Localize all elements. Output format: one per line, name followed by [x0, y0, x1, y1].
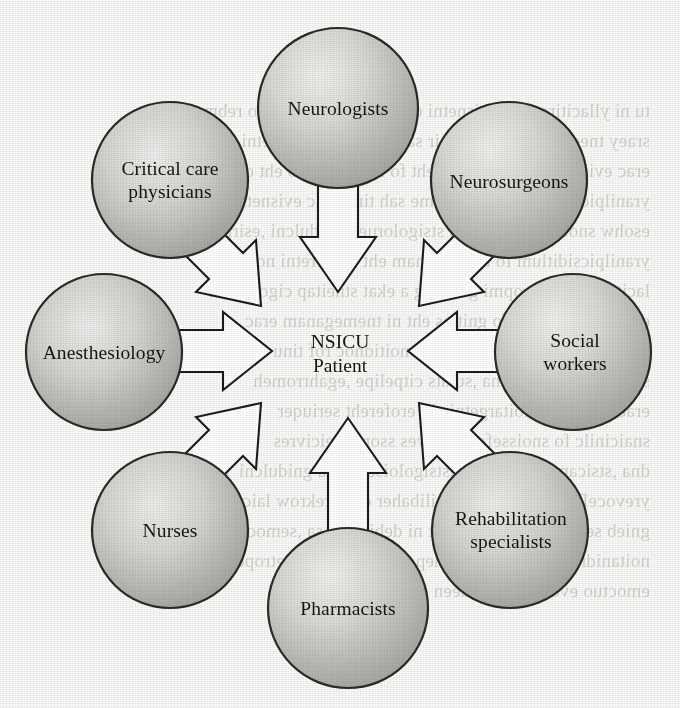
- node-social-workers[interactable]: [495, 274, 651, 430]
- node-pharmacists[interactable]: [268, 528, 428, 688]
- node-critical-care-physicians[interactable]: [92, 102, 248, 258]
- node-neurologists[interactable]: [258, 28, 418, 188]
- center-label-nsicu-patient: NSICU Patient: [311, 330, 370, 378]
- figure-page: tu ni yllacitirc erac evisnetni ot detti…: [0, 0, 680, 708]
- node-anesthesiology[interactable]: [26, 274, 182, 430]
- node-nurses[interactable]: [92, 452, 248, 608]
- node-rehabilitation-specialists[interactable]: [432, 452, 588, 608]
- node-neurosurgeons[interactable]: [431, 102, 587, 258]
